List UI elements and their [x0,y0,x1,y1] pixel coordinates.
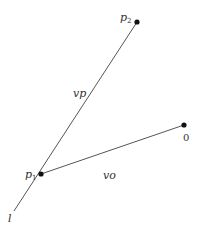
label-vo: vo [103,169,116,182]
label-l: l [8,212,12,225]
point-p2 [134,19,139,24]
segment-vo [41,125,184,174]
geometry-diagram: p2 vp p1 vo 0 l [0,0,201,232]
label-o: 0 [183,132,189,143]
line-l [14,22,137,211]
point-o [181,122,186,127]
label-p2: p2 [120,11,132,25]
label-p1: p1 [25,168,37,182]
label-vp: vp [73,87,86,100]
point-p1 [38,171,43,176]
